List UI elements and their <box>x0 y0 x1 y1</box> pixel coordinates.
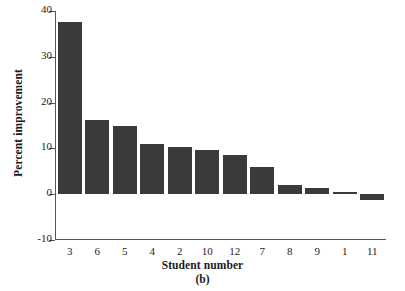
bar-group: 3 <box>56 11 84 240</box>
bar-group: 11 <box>359 11 387 240</box>
y-tick-label: 40 <box>41 3 52 15</box>
bar-group: 10 <box>194 11 222 240</box>
x-tick-label: 5 <box>122 245 128 257</box>
bar-group: 12 <box>221 11 249 240</box>
bar <box>250 167 274 194</box>
bar-group: 6 <box>84 11 112 240</box>
x-tick-label: 6 <box>95 245 101 257</box>
y-axis-title: Percent improvement <box>12 38 24 208</box>
x-axis-title: Student number <box>0 259 405 271</box>
bar <box>140 144 164 194</box>
x-tick-label: 1 <box>342 245 348 257</box>
bar-series: 365421012789111 <box>56 11 386 240</box>
bar-group: 4 <box>139 11 167 240</box>
bar-group: 8 <box>276 11 304 240</box>
x-tick-label: 12 <box>229 245 240 257</box>
x-tick-label: 11 <box>367 245 378 257</box>
y-tick-label: 0 <box>47 186 53 198</box>
bar-group: 1 <box>331 11 359 240</box>
bar <box>85 120 109 194</box>
bar <box>195 150 219 194</box>
x-tick-label: 10 <box>202 245 213 257</box>
bar <box>360 194 384 200</box>
x-tick-label: 4 <box>150 245 156 257</box>
bar <box>333 192 357 194</box>
x-tick-label: 9 <box>315 245 321 257</box>
bar <box>58 22 82 194</box>
x-tick-label: 7 <box>260 245 266 257</box>
bar <box>168 147 192 195</box>
x-tick-label: 3 <box>67 245 73 257</box>
y-tick-label: 20 <box>41 95 52 107</box>
bar-chart-figure: Percent improvement 403020100-10 3654210… <box>0 0 405 291</box>
bar-group: 7 <box>249 11 277 240</box>
bar-group: 5 <box>111 11 139 240</box>
bar <box>305 188 329 194</box>
bar <box>278 185 302 194</box>
x-tick-label: 2 <box>177 245 183 257</box>
y-tick-label: 30 <box>41 49 52 61</box>
bar <box>113 126 137 195</box>
y-tick-label: -10 <box>37 232 52 244</box>
bar-group: 9 <box>304 11 332 240</box>
plot-area: 403020100-10 365421012789111 <box>56 11 386 240</box>
panel-label: (b) <box>0 273 405 285</box>
y-tick-label: 10 <box>41 140 52 152</box>
bar-group: 2 <box>166 11 194 240</box>
bar <box>223 155 247 194</box>
x-tick-label: 8 <box>287 245 293 257</box>
